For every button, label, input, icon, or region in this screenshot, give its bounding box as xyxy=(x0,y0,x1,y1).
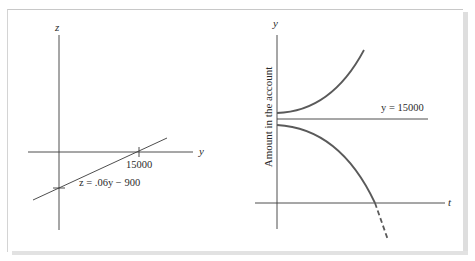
figure-plots: z y 15000 z = .06y − 900 y t y = 15000 A… xyxy=(0,0,475,261)
amount-axis-label: y xyxy=(272,17,278,29)
z-axis-label: z xyxy=(54,21,60,33)
curve-below-dashed-extension xyxy=(375,203,388,240)
tick-label-15000: 15000 xyxy=(126,159,152,170)
amount-axis-title: Amount in the account xyxy=(262,67,274,168)
curve-below-equilibrium xyxy=(277,125,375,203)
t-axis-label: t xyxy=(448,196,452,208)
y-axis-label: y xyxy=(198,145,204,157)
equilibrium-label: y = 15000 xyxy=(381,102,424,113)
curve-above-equilibrium xyxy=(277,50,364,113)
left-panel: z y 15000 z = .06y − 900 xyxy=(28,21,204,230)
line-equation-label: z = .06y − 900 xyxy=(79,177,140,188)
right-panel: y t y = 15000 Amount in the account xyxy=(255,17,452,240)
